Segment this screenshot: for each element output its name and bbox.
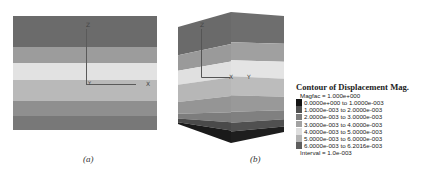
x-axis-label: X xyxy=(229,74,233,80)
legend-range: 5.0000e-003 to 6.0000e-003 xyxy=(304,135,382,142)
legend-swatch xyxy=(296,142,302,149)
legend-range: 0.0000e+000 to 1.0000e-003 xyxy=(304,99,384,106)
legend-magfac: Magfac = 1.000e+000 xyxy=(296,92,448,99)
legend-range: 3.0000e-003 to 4.0000e-003 xyxy=(304,121,382,128)
legend-row: 5.0000e-003 to 6.0000e-003 xyxy=(296,135,448,142)
panel-b-caption: (b) xyxy=(250,154,261,164)
legend-range: 2.0000e-003 to 3.0000e-003 xyxy=(304,113,382,120)
legend-row: 0.0000e+000 to 1.0000e-003 xyxy=(296,99,448,106)
legend-row: 2.0000e-003 to 3.0000e-003 xyxy=(296,113,448,120)
legend-swatch xyxy=(296,114,302,121)
legend-swatch xyxy=(296,99,302,106)
block-left-face xyxy=(170,0,240,160)
legend-range: 4.0000e-003 to 5.0000e-003 xyxy=(304,128,382,135)
legend-swatch xyxy=(296,135,302,142)
legend-swatch xyxy=(296,121,302,128)
legend-swatch xyxy=(296,128,302,135)
block-right-face xyxy=(225,0,290,160)
legend-interval: Interval = 1.0e-003 xyxy=(296,149,448,156)
legend-range: 1.0000e-003 to 2.0000e-003 xyxy=(304,106,382,113)
legend-row: 3.0000e-003 to 4.0000e-003 xyxy=(296,121,448,128)
z-axis-label: Z xyxy=(200,22,204,28)
legend-row: 4.0000e-003 to 5.0000e-003 xyxy=(296,128,448,135)
legend-swatch xyxy=(296,106,302,113)
legend-row: 1.0000e-003 to 2.0000e-003 xyxy=(296,106,448,113)
contour-legend: Contour of Displacement Mag. Magfac = 1.… xyxy=(296,82,448,156)
legend-row: 6.0000e-003 to 6.2016e-003 xyxy=(296,142,448,149)
y-axis-label: Y xyxy=(247,74,251,80)
legend-range: 6.0000e-003 to 6.2016e-003 xyxy=(304,142,382,149)
legend-title: Contour of Displacement Mag. xyxy=(296,82,448,92)
